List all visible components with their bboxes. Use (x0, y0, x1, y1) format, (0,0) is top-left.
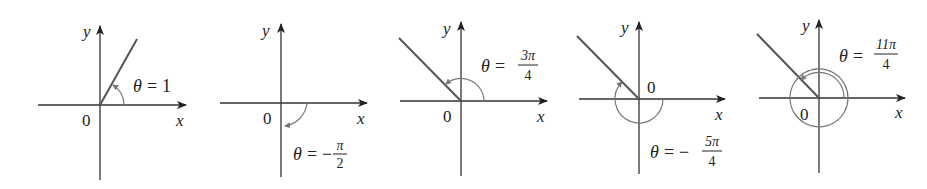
origin-label: 0 (82, 111, 91, 130)
x-axis-label: x (175, 111, 184, 130)
theta-symbol: θ (650, 142, 659, 162)
fraction-denominator: 2 (337, 156, 344, 171)
angle-arc (285, 103, 307, 126)
origin-label: 0 (263, 109, 272, 128)
y-axis-label: y (619, 18, 629, 37)
panel-theta-neg-pi-over-2: y x 0 θ = − π 2 (220, 21, 367, 177)
equals-sign: = (307, 144, 317, 164)
x-axis-label: x (536, 107, 545, 126)
fraction-denominator: 4 (525, 68, 532, 83)
theta-symbol: θ (133, 76, 142, 96)
panel-theta-11pi-over-4: y x 0 θ = 11π 4 (757, 16, 905, 173)
equals-sign: = (664, 142, 674, 162)
panel-theta-3pi-over-4: y x 0 θ = 3π 4 (399, 19, 547, 176)
panel-theta-neg-5pi-over-4: y x 0 θ = − 5π 4 (577, 18, 725, 174)
fraction-numerator: 11π (876, 37, 897, 52)
terminal-ray (100, 39, 137, 105)
fraction-numerator: 5π (705, 134, 720, 149)
minus-sign: − (679, 142, 689, 162)
panel-theta-1: y x 0 θ = 1 (38, 22, 186, 180)
x-axis-label: x (714, 105, 723, 124)
equals-sign: = (495, 56, 505, 76)
minus-sign: − (322, 144, 332, 164)
angle-value: 1 (162, 76, 171, 96)
x-axis-label: x (356, 109, 365, 128)
theta-symbol: θ (293, 144, 302, 164)
terminal-ray (399, 38, 461, 101)
fraction-denominator: 4 (883, 57, 890, 72)
y-axis-label: y (260, 21, 270, 40)
origin-label: 0 (800, 105, 809, 124)
fraction-numerator: 3π (520, 48, 536, 63)
equals-sign: = (147, 76, 157, 96)
angle-diagrams: y x 0 θ = 1 y x 0 θ = − π 2 y x 0 θ = 3π… (0, 0, 927, 189)
y-axis-label: y (81, 22, 91, 41)
terminal-ray (757, 34, 819, 98)
terminal-ray (577, 36, 639, 99)
x-axis-label: x (894, 103, 903, 122)
origin-label: 0 (647, 78, 656, 97)
y-axis-label: y (441, 19, 451, 38)
theta-symbol: θ (481, 56, 490, 76)
equals-sign: = (853, 46, 863, 66)
angle-arc (113, 85, 124, 105)
fraction-denominator: 4 (709, 154, 716, 169)
y-axis-label: y (800, 16, 810, 35)
angle-arc (446, 78, 484, 101)
theta-symbol: θ (839, 46, 848, 66)
origin-label: 0 (443, 107, 452, 126)
fraction-numerator: π (336, 138, 344, 153)
